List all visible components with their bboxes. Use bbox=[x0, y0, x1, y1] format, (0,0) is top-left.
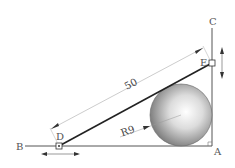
vertical-motion-arrow-icon bbox=[220, 47, 224, 79]
diagram-svg: 50 R9 B A C D E bbox=[0, 0, 235, 168]
pin-d bbox=[58, 145, 60, 147]
label-b: B bbox=[16, 141, 23, 152]
label-e: E bbox=[200, 57, 207, 68]
label-a: A bbox=[213, 146, 222, 157]
label-d: D bbox=[56, 131, 64, 142]
corner-mark-a bbox=[208, 142, 212, 146]
dim-arrow-e bbox=[195, 48, 203, 54]
dim-arrow-d bbox=[51, 123, 59, 129]
radius-arrow bbox=[143, 126, 150, 130]
radius-label: R9 bbox=[119, 123, 136, 138]
horizontal-motion-arrow-icon bbox=[41, 152, 80, 156]
label-c: C bbox=[209, 16, 217, 27]
mechanism-diagram: 50 R9 B A C D E bbox=[0, 0, 235, 168]
slider-e bbox=[209, 60, 215, 66]
